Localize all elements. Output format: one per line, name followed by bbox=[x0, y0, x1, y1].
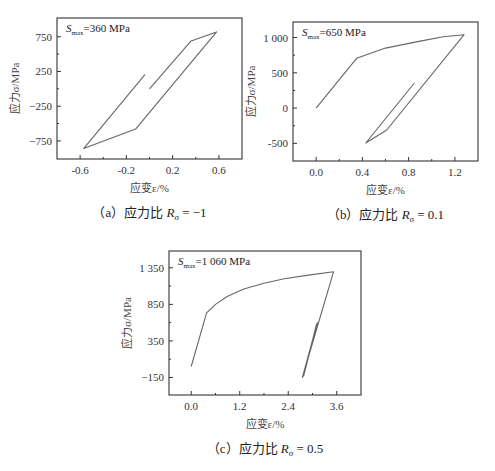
plot-frame bbox=[169, 251, 361, 395]
figure-caption: （c）应力比 Rσ = 0.5 bbox=[207, 441, 324, 458]
smax-subscript: max bbox=[308, 33, 321, 41]
x-tick-label: -0.2 bbox=[118, 164, 135, 176]
chart-b: 0.00.40.81.21 0005000-500Smax=650 MPa应变ε… bbox=[244, 22, 478, 224]
y-tick-label: −150 bbox=[141, 371, 164, 383]
figure-caption: （b）应力比 Rσ = 0.1 bbox=[327, 207, 444, 224]
y-tick-label: 1 350 bbox=[139, 262, 164, 274]
caption-prefix: （c）应力比 bbox=[207, 441, 281, 456]
data-line bbox=[316, 35, 464, 143]
x-axis-label: 应变ε/% bbox=[366, 183, 405, 196]
x-tick-label: 1.2 bbox=[233, 400, 247, 412]
y-tick-label: −750 bbox=[29, 135, 52, 147]
y-axis-label: 应力σ/MPa bbox=[8, 63, 21, 115]
plot-frame bbox=[293, 22, 478, 161]
x-tick-label: 0.4 bbox=[356, 166, 370, 178]
smax-annotation: Smax=360 MPa bbox=[66, 22, 130, 37]
y-tick-label: 750 bbox=[36, 31, 53, 43]
smax-value: =650 MPa bbox=[320, 26, 366, 38]
smax-subscript: max bbox=[184, 262, 197, 270]
caption-prefix: （b）应力比 bbox=[327, 207, 402, 222]
x-tick-label: 0.0 bbox=[184, 400, 198, 412]
chart-a: -0.6-0.20.20.6750250−250−750Smax=360 MPa… bbox=[8, 18, 242, 222]
figure-caption: （a）应力比 Rσ = −1 bbox=[92, 205, 206, 222]
x-tick-label: 2.4 bbox=[281, 400, 295, 412]
y-tick-label: 250 bbox=[36, 65, 53, 77]
y-tick-label: 1 000 bbox=[263, 32, 288, 44]
x-tick-label: 0.8 bbox=[402, 166, 416, 178]
smax-value: =360 MPa bbox=[84, 22, 130, 34]
y-tick-label: 850 bbox=[148, 298, 165, 310]
x-tick-label: 1.2 bbox=[448, 166, 462, 178]
y-axis-label: 应力σ/MPa bbox=[120, 297, 133, 349]
x-tick-label: -0.6 bbox=[71, 164, 89, 176]
caption-prefix: （a）应力比 bbox=[92, 205, 166, 220]
caption-suffix: = 0.1 bbox=[414, 207, 444, 222]
y-axis-label: 应力σ/MPa bbox=[244, 66, 257, 118]
caption-symbol: R bbox=[165, 205, 174, 220]
caption-suffix: = −1 bbox=[179, 205, 207, 220]
caption-symbol: R bbox=[401, 207, 410, 222]
x-tick-label: 0.6 bbox=[212, 164, 226, 176]
data-line bbox=[84, 32, 217, 149]
caption-symbol: R bbox=[280, 441, 289, 456]
smax-value: =1 060 MPa bbox=[196, 255, 251, 267]
y-tick-label: -500 bbox=[268, 137, 289, 149]
smax-subscript: max bbox=[72, 29, 85, 37]
figure: -0.6-0.20.20.6750250−250−750Smax=360 MPa… bbox=[0, 0, 495, 471]
smax-annotation: Smax=650 MPa bbox=[302, 26, 366, 41]
x-tick-label: 0.0 bbox=[309, 166, 323, 178]
y-tick-label: 0 bbox=[283, 102, 289, 114]
y-tick-label: 500 bbox=[272, 67, 289, 79]
data-line bbox=[191, 272, 333, 378]
x-axis-label: 应变ε/% bbox=[246, 417, 285, 430]
y-tick-label: −250 bbox=[29, 100, 52, 112]
x-tick-label: 0.2 bbox=[166, 164, 180, 176]
y-tick-label: 350 bbox=[148, 335, 165, 347]
x-tick-label: 3.6 bbox=[330, 400, 344, 412]
caption-suffix: = 0.5 bbox=[293, 441, 323, 456]
chart-c: 0.01.22.43.61 350850350−150Smax=1 060 MP… bbox=[120, 251, 361, 458]
smax-annotation: Smax=1 060 MPa bbox=[178, 255, 250, 270]
x-axis-label: 应变ε/% bbox=[130, 181, 169, 194]
